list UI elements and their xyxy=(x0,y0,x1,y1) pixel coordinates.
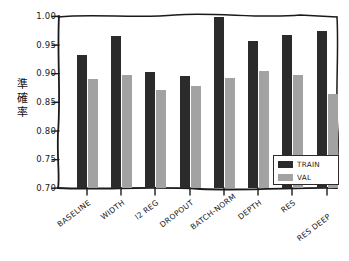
bar-val xyxy=(225,78,235,188)
x-axis-tick-label: RES xyxy=(257,198,298,232)
x-axis-tick-label: l2 REG xyxy=(120,198,161,232)
x-axis-tick-label: BASELINE xyxy=(52,198,93,232)
legend-item: TRAIN xyxy=(278,159,335,170)
legend-label: TRAIN xyxy=(297,160,320,169)
bar-group xyxy=(77,16,98,188)
bar-group xyxy=(248,16,269,188)
legend-item: VAL xyxy=(278,172,335,183)
bar-val xyxy=(156,90,166,188)
x-axis-tick-label: WIDTH xyxy=(86,198,127,232)
bar-val xyxy=(122,75,132,188)
bar-val xyxy=(259,71,269,188)
bar-train xyxy=(180,76,190,188)
y-axis-tick-label: 0.90 xyxy=(36,68,56,78)
x-axis-tick-label: DROPOUT xyxy=(155,198,196,232)
y-axis-tick-label: 0.75 xyxy=(36,154,56,164)
y-axis-tick-label: 0.95 xyxy=(36,40,56,50)
bar-train xyxy=(214,17,224,188)
legend-swatch-val xyxy=(278,174,293,181)
bar-train xyxy=(111,36,121,188)
chart-figure: 準 確 率 0.700.750.800.850.900.951.00 BASEL… xyxy=(0,0,349,261)
bar-train xyxy=(77,55,87,188)
x-axis-tick-label: RES DEEP xyxy=(292,212,333,246)
x-axis-tick-label: BATCH-NORM xyxy=(189,198,230,232)
legend-swatch-train xyxy=(278,161,293,168)
chart-legend: TRAINVAL xyxy=(273,155,339,185)
y-axis-tick-labels: 0.700.750.800.850.900.951.00 xyxy=(10,0,56,261)
y-axis-tick-label: 0.80 xyxy=(36,126,56,136)
bar-train xyxy=(248,41,258,188)
bar-group xyxy=(180,16,201,188)
bar-val xyxy=(88,79,98,188)
y-axis-tick-label: 1.00 xyxy=(36,11,56,21)
y-axis-tick-label: 0.70 xyxy=(36,183,56,193)
bar-group xyxy=(145,16,166,188)
bar-val xyxy=(191,86,201,188)
bar-group xyxy=(111,16,132,188)
bar-group xyxy=(214,16,235,188)
y-axis-tick-label: 0.85 xyxy=(36,97,56,107)
bar-train xyxy=(145,72,155,188)
legend-label: VAL xyxy=(297,173,311,182)
